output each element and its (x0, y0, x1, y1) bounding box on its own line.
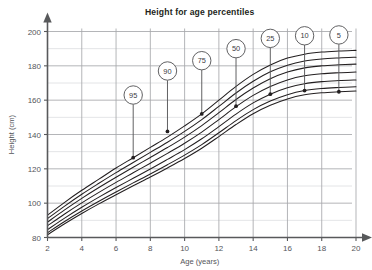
chart-title: Height for age percentiles (145, 7, 255, 17)
callout-marker-10 (303, 89, 307, 93)
x-axis-tick-label: 14 (249, 244, 258, 253)
y-axis-tick-label: 180 (28, 62, 42, 71)
x-axis-arrowhead (362, 233, 372, 241)
callout-bubble-label-75: 75 (198, 56, 206, 65)
callout-bubble-label-95: 95 (129, 91, 137, 100)
x-axis-tick-label: 20 (352, 244, 361, 253)
callout-bubble-label-90: 90 (163, 67, 171, 76)
callout-bubble-label-25: 25 (266, 34, 274, 43)
x-axis-tick-label: 18 (317, 244, 326, 253)
x-axis-tick-label: 2 (45, 244, 50, 253)
x-axis-tick-label: 8 (148, 244, 153, 253)
x-axis-tick-label: 16 (283, 244, 292, 253)
y-axis-tick-label: 200 (28, 28, 42, 37)
y-axis-tick-label: 120 (28, 165, 42, 174)
y-axis-tick-label: 140 (28, 131, 42, 140)
y-axis-tick-label: 160 (28, 96, 42, 105)
callout-marker-25 (268, 92, 272, 96)
y-axis-tick-label: 80 (32, 234, 41, 243)
x-axis-tick-label: 4 (80, 244, 85, 253)
y-axis-label: Height (cm) (7, 114, 16, 154)
callout-marker-75 (200, 112, 204, 116)
callout-bubble-label-5: 5 (337, 31, 341, 40)
x-axis-tick-label: 10 (180, 244, 189, 253)
chart-canvas: 801001201401601802002468101214161820Heig… (0, 0, 372, 270)
y-axis-tick-label: 100 (28, 199, 42, 208)
callout-marker-95 (131, 156, 135, 160)
x-axis-tick-label: 12 (214, 244, 223, 253)
callout-bubble-label-10: 10 (300, 31, 308, 40)
callout-marker-5 (337, 90, 341, 94)
y-axis-arrowhead (43, 13, 51, 23)
x-axis-tick-label: 6 (114, 244, 119, 253)
callout-marker-50 (234, 104, 238, 108)
height-for-age-percentile-chart: 801001201401601802002468101214161820Heig… (0, 0, 372, 270)
callout-bubble-label-50: 50 (232, 44, 240, 53)
x-axis-label: Age (years) (180, 257, 220, 266)
callout-marker-90 (166, 130, 170, 134)
